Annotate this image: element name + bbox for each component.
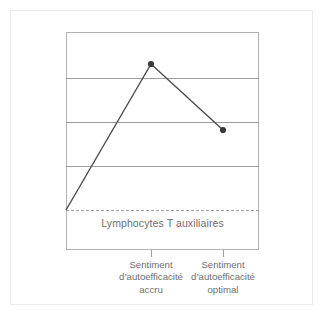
figure-container: Lymphocytes T auxiliaires Sentiment d’au… bbox=[0, 0, 328, 318]
x-axis-tick-0 bbox=[151, 250, 152, 257]
inner-plot-annotation: Lymphocytes T auxiliaires bbox=[66, 217, 259, 229]
data-point-marker-end bbox=[220, 127, 226, 133]
x-axis-label-1-line2: d’autoefficacité bbox=[171, 271, 275, 283]
x-axis-label-1-line1: Sentiment bbox=[171, 259, 275, 271]
data-point-marker-peak bbox=[148, 61, 154, 67]
x-axis-label-1: Sentiment d’autoefficacité optimal bbox=[171, 259, 275, 296]
x-axis-label-1-line3: optimal bbox=[171, 284, 275, 296]
series-polyline bbox=[66, 64, 223, 210]
x-axis-tick-1 bbox=[223, 250, 224, 257]
